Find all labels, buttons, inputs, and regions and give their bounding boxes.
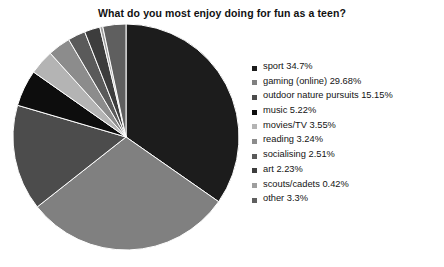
legend-swatch-icon <box>252 139 257 144</box>
legend-item[interactable]: gaming (online) 29.68% <box>252 77 442 86</box>
legend-item-label: movies/TV 3.55% <box>263 121 336 130</box>
legend-item-label: other 3.3% <box>263 194 308 203</box>
legend-swatch-icon <box>252 183 257 188</box>
pie-chart-plot-area <box>13 24 239 250</box>
legend-item[interactable]: socialising 2.51% <box>252 150 442 159</box>
legend-item[interactable]: art 2.23% <box>252 165 442 174</box>
legend-item-label: gaming (online) 29.68% <box>263 77 361 86</box>
legend-item-label: art 2.23% <box>263 165 303 174</box>
legend-item[interactable]: reading 3.24% <box>252 135 442 144</box>
legend-swatch-icon <box>252 80 257 85</box>
pie-slice-group <box>13 24 239 250</box>
legend-item-label: sport 34.7% <box>263 62 313 71</box>
legend-item[interactable]: sport 34.7% <box>252 62 442 71</box>
legend-swatch-icon <box>252 124 257 129</box>
legend-item-label: reading 3.24% <box>263 135 323 144</box>
legend-swatch-icon <box>252 154 257 159</box>
legend-item-label: music 5.22% <box>263 106 316 115</box>
legend-item-label: socialising 2.51% <box>263 150 335 159</box>
pie-svg <box>13 24 239 250</box>
legend-item-label: scouts/cadets 0.42% <box>263 180 349 189</box>
legend-swatch-icon <box>252 110 257 115</box>
legend-swatch-icon <box>252 95 257 100</box>
pie-chart-figure: What do you most enjoy doing for fun as … <box>0 0 444 267</box>
legend-item[interactable]: music 5.22% <box>252 106 442 115</box>
chart-legend: sport 34.7%gaming (online) 29.68%outdoor… <box>252 62 442 209</box>
legend-item[interactable]: movies/TV 3.55% <box>252 121 442 130</box>
chart-title: What do you most enjoy doing for fun as … <box>0 7 444 19</box>
legend-item[interactable]: outdoor nature pursuits 15.15% <box>252 91 442 100</box>
legend-item[interactable]: scouts/cadets 0.42% <box>252 180 442 189</box>
legend-item-label: outdoor nature pursuits 15.15% <box>263 91 393 100</box>
legend-swatch-icon <box>252 198 257 203</box>
legend-item[interactable]: other 3.3% <box>252 194 442 203</box>
legend-swatch-icon <box>252 66 257 71</box>
legend-swatch-icon <box>252 168 257 173</box>
